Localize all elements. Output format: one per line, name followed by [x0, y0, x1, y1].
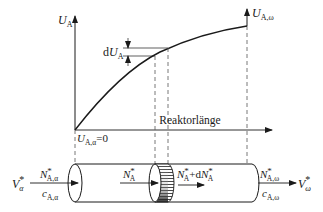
inlet-molar-label: N*A,α [39, 166, 58, 183]
conversion-graph: UA UA,ω dUA Reaktorlänge UA,α=0 [58, 6, 274, 165]
element-out-label: N*A+dN*A [176, 166, 214, 183]
differential-label: dUA [103, 45, 124, 61]
y-axis-right-label: UA,ω [252, 6, 274, 22]
reactor-tube: V*α N*A,α cA,α N*A N*A+dN*A N*A,ω cA,ω V… [12, 164, 311, 202]
x-axis-label: Reaktorlänge [159, 114, 220, 127]
inlet-conc-label: cA,α [42, 187, 58, 202]
y-axis-label: UA [58, 13, 73, 29]
reactor-conversion-diagram: UA UA,ω dUA Reaktorlänge UA,α=0 [0, 0, 323, 212]
outlet-conc-label: cA,ω [262, 187, 279, 202]
outlet-molar-label: N*A,ω [259, 166, 279, 183]
tube-outlet-face [252, 164, 259, 202]
origin-label: UA,α=0 [77, 132, 108, 147]
element-in-label: N*A [122, 166, 136, 183]
inlet-flow-label: V*α [12, 174, 24, 193]
outlet-flow-label: V*ω [298, 174, 311, 193]
